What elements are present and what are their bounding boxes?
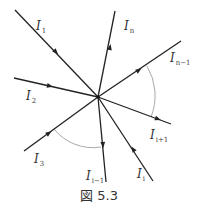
- current-line-i1: [15, 10, 98, 97]
- angle-arc: [147, 66, 155, 117]
- arrow-icon: [154, 116, 160, 121]
- current-line-ii: [98, 97, 153, 181]
- current-labels: I1I2I3Ii−1IiIi+1In−1In: [25, 19, 191, 185]
- angle-arc: [54, 129, 101, 148]
- current-label-in-1: In−1: [169, 51, 191, 67]
- current-line-ii-1: [98, 97, 106, 182]
- current-line-i3: [24, 97, 98, 151]
- current-label-i2: I2: [25, 89, 36, 105]
- current-label-ii: Ii: [136, 167, 146, 183]
- kirchhoff-node-diagram: I1I2I3Ii−1IiIi+1In−1In 図 5.3: [0, 0, 198, 212]
- arrow-icon: [45, 131, 51, 136]
- current-label-ii+1: Ii+1: [149, 128, 168, 144]
- current-label-i1: I1: [35, 19, 46, 35]
- current-line-in: [98, 11, 115, 97]
- current-label-i3: I3: [33, 152, 44, 168]
- node-point: [96, 95, 99, 98]
- figure-caption: 図 5.3: [80, 188, 118, 203]
- current-label-in: In: [123, 19, 135, 35]
- arrow-icon: [135, 68, 141, 73]
- current-label-ii-1: Ii−1: [85, 169, 104, 185]
- arrow-icon: [131, 146, 136, 152]
